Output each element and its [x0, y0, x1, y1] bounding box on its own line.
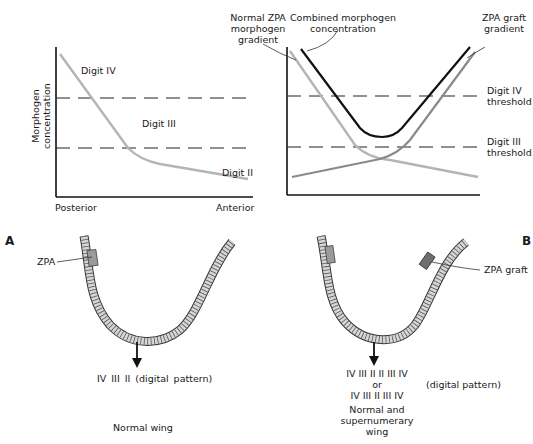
panel-a-y-axis-label: Morphogen concentration	[30, 81, 52, 151]
annotation-line: Combined morphogen	[288, 12, 398, 23]
zpa-graft-gradient-curve	[292, 52, 475, 177]
wing-b-fill	[321, 236, 466, 340]
panel-b-wing	[321, 236, 480, 366]
annotation-line: morphogen	[222, 23, 294, 34]
wing-b-pattern-or: or	[326, 379, 428, 390]
y-label-line2: concentration	[41, 81, 52, 151]
region-label-digit-iv: Digit IV	[81, 65, 116, 76]
wing-b-pattern-suffix: (digital pattern)	[426, 379, 501, 390]
annotation-line: Normal ZPA	[222, 12, 294, 23]
annotation-combined-morphogen: Combined morphogen concentration	[288, 12, 398, 34]
annotation-line: ZPA graft	[478, 12, 530, 23]
annotation-digit-iii-threshold: Digit III threshold	[487, 136, 532, 158]
panel-letter-a: A	[5, 234, 14, 248]
zpa-graft-label: ZPA graft	[484, 264, 528, 275]
y-label-line1: Morphogen	[30, 81, 41, 151]
annotation-line: threshold	[487, 96, 532, 107]
panel-a-wing	[57, 236, 232, 368]
diagram-canvas	[0, 0, 533, 444]
annotation-zpa-graft-gradient: ZPA graft gradient	[478, 12, 530, 34]
annotation-line: gradient	[478, 23, 530, 34]
annotation-line: threshold	[487, 147, 532, 158]
wing-b-arrow-head	[369, 356, 379, 366]
wing-a-arrow-head	[132, 358, 142, 368]
x-label-anterior: Anterior	[216, 202, 254, 213]
wing-b-caption: Normal and supernumerary wing	[326, 404, 428, 437]
region-label-digit-iii: Digit III	[142, 118, 176, 129]
wing-b-pattern-line2: IV III II III IV	[326, 390, 428, 401]
annotation-line: concentration	[288, 23, 398, 34]
caption-line: supernumerary	[326, 415, 428, 426]
wing-b-pattern-line1: IV III II II III IV	[326, 368, 428, 379]
annotation-line: Digit IV	[487, 85, 532, 96]
annotation-line: Digit III	[487, 136, 532, 147]
wing-a-caption: Normal wing	[113, 422, 173, 433]
caption-line: Normal and	[326, 404, 428, 415]
annotation-normal-zpa-gradient: Normal ZPA morphogen gradient	[222, 12, 294, 45]
annotation-line: gradient	[222, 34, 294, 45]
annotation-digit-iv-threshold: Digit IV threshold	[487, 85, 532, 107]
panel-letter-b: B	[522, 234, 531, 248]
zpa-label: ZPA	[37, 256, 55, 267]
x-label-posterior: Posterior	[55, 202, 97, 213]
caption-line: wing	[326, 426, 428, 437]
zpa-graft-block	[419, 252, 435, 269]
panel-b-graph	[263, 30, 485, 195]
zpa-block	[87, 249, 98, 266]
wing-a-digital-pattern: IV III II (digital pattern)	[97, 373, 212, 384]
region-label-digit-ii: Digit II	[222, 167, 253, 178]
